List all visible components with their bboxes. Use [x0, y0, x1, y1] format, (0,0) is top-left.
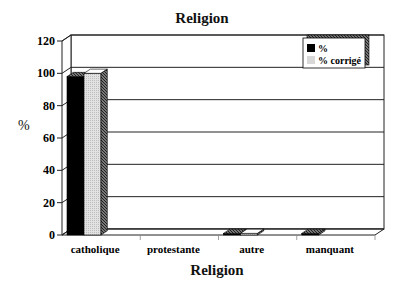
y-tick-label: 40: [43, 163, 55, 177]
y-tick-label: 100: [37, 66, 55, 80]
x-category-label: protestante: [147, 243, 200, 255]
x-category-label: manquant: [306, 243, 355, 255]
y-tick-label: 60: [43, 131, 55, 145]
legend-label: % corrigé: [318, 55, 362, 66]
bar: [84, 69, 107, 235]
y-tick-label: 120: [37, 34, 55, 48]
x-category-label: catholique: [71, 243, 120, 255]
y-tick-label: 0: [49, 228, 55, 242]
legend-swatch: [307, 56, 315, 64]
bar-chart: 020406080100120catholiqueprotestanteautr…: [0, 0, 404, 294]
y-tick-label: 80: [43, 99, 55, 113]
y-tick-label: 20: [43, 196, 55, 210]
legend: %% corrigé: [303, 35, 369, 68]
legend-label: %: [318, 43, 328, 54]
legend-swatch: [307, 44, 315, 52]
x-category-label: autre: [239, 243, 264, 255]
